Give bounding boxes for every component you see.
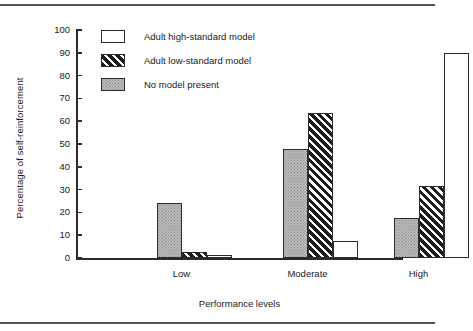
bar — [207, 255, 232, 258]
bar — [157, 203, 182, 258]
y-tick-label: 50 — [24, 139, 70, 149]
legend-item: No model present — [101, 72, 321, 96]
legend-item-label: No model present — [144, 79, 219, 90]
bar — [283, 149, 308, 258]
x-axis-title: Performance levels — [76, 298, 403, 309]
bar — [333, 241, 358, 258]
bar — [419, 186, 444, 258]
x-axis-line — [76, 258, 403, 260]
legend-swatch-icon — [101, 30, 125, 43]
bar — [444, 53, 469, 258]
y-tick-label: 60 — [24, 116, 70, 126]
y-tick-label: 70 — [24, 93, 70, 103]
y-tick-label: 10 — [24, 230, 70, 240]
x-axis-label-moderate: Moderate — [248, 268, 368, 279]
y-tick-label: 30 — [24, 185, 70, 195]
legend-item-label: Adult low-standard model — [144, 55, 251, 66]
legend-item-label: Adult high-standard model — [144, 31, 255, 42]
legend-swatch-icon — [101, 78, 125, 91]
x-axis-label-low: Low — [122, 268, 242, 279]
x-axis-label-high: High — [359, 268, 473, 279]
bottom-rule — [0, 322, 435, 324]
y-tick-label: 40 — [24, 162, 70, 172]
y-tick-label: 80 — [24, 71, 70, 81]
legend-item: Adult high-standard model — [101, 24, 321, 48]
y-tick-label: 90 — [24, 48, 70, 58]
bar — [394, 218, 419, 258]
y-tick-label: 100 — [24, 25, 70, 35]
y-tick-label: 20 — [24, 207, 70, 217]
legend-item: Adult low-standard model — [101, 48, 321, 72]
y-tick-label: 0 — [24, 253, 70, 263]
legend: Adult high-standard modelAdult low-stand… — [101, 24, 321, 96]
bar — [308, 113, 333, 258]
bar — [182, 252, 207, 258]
top-rule — [0, 4, 435, 6]
legend-swatch-icon — [101, 54, 125, 67]
